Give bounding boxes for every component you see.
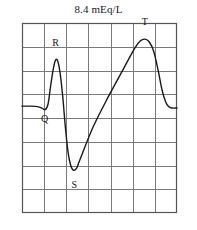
ecg-figure: 8.4 mEq/L QRST	[0, 0, 197, 230]
plot-area: QRST	[22, 23, 177, 213]
ecg-waveform-path	[22, 39, 177, 170]
wave-label-r: R	[52, 37, 59, 48]
wave-label-s: S	[71, 179, 77, 190]
chart-title: 8.4 mEq/L	[0, 3, 197, 15]
wave-label-t: T	[142, 16, 148, 27]
ecg-plot-svg: QRST	[22, 23, 177, 213]
wave-labels: QRST	[41, 16, 148, 190]
wave-label-q: Q	[41, 113, 49, 124]
